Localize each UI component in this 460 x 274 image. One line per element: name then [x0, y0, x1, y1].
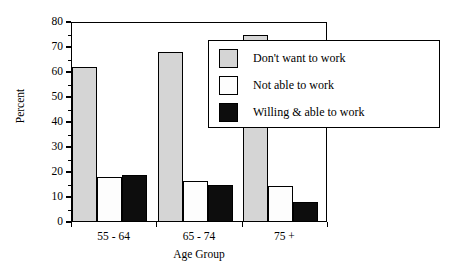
x-axis-tick-mark [242, 222, 243, 227]
y-axis-tick-label: 30 [52, 141, 67, 153]
y-axis-minor-tick [68, 185, 71, 186]
bar [268, 186, 293, 222]
y-axis-tick-mark [66, 96, 71, 97]
y-axis-tick-label: 40 [52, 116, 67, 128]
x-axis-tick-mark [156, 222, 157, 227]
x-axis-category-label: 75 + [242, 230, 327, 242]
legend-label: Don't want to work [253, 51, 345, 66]
y-axis-tick-mark [66, 71, 71, 72]
y-axis-tick-label: 80 [52, 16, 67, 28]
y-axis-tick-label: 50 [52, 91, 67, 103]
y-axis-minor-tick [68, 60, 71, 61]
bar [208, 185, 233, 223]
legend-entry-not-able-to-work: Not able to work [219, 75, 334, 95]
legend-label: Not able to work [253, 78, 334, 93]
bar [183, 181, 208, 222]
x-axis-tick-mark [71, 222, 72, 227]
y-axis-tick-label: 10 [52, 191, 67, 203]
x-axis-category-label: 55 - 64 [71, 230, 156, 242]
bar [158, 52, 183, 222]
y-axis-tick-mark [66, 146, 71, 147]
y-axis-minor-tick [68, 160, 71, 161]
bar [293, 202, 318, 222]
y-axis-tick-mark [66, 171, 71, 172]
legend-swatch-icon-dont-want-to-work [219, 49, 238, 68]
x-axis-category-label: 65 - 74 [156, 230, 241, 242]
bar [97, 177, 122, 222]
x-axis-label: Age Group [71, 248, 327, 260]
legend-swatch-icon-willing-able-to-work [219, 103, 238, 122]
legend-swatch-icon-not-able-to-work [219, 76, 238, 95]
y-axis-tick-mark [66, 196, 71, 197]
y-axis-minor-tick [68, 210, 71, 211]
x-axis-tick-mark [327, 222, 328, 227]
legend-label: Willing & able to work [253, 105, 365, 120]
legend-entry-dont-want-to-work: Don't want to work [219, 48, 345, 68]
y-axis-tick-mark [66, 121, 71, 122]
bar-chart: Percent 0102030405060708055 - 6465 - 747… [0, 0, 460, 274]
bar [72, 67, 97, 222]
y-axis-tick-mark [66, 46, 71, 47]
y-axis-tick-label: 0 [57, 216, 66, 228]
legend: Don't want to work Not able to work Will… [208, 40, 440, 128]
y-axis-tick-label: 70 [52, 41, 67, 53]
y-axis-minor-tick [68, 85, 71, 86]
legend-entry-willing-able-to-work: Willing & able to work [219, 102, 365, 122]
y-axis-minor-tick [68, 110, 71, 111]
y-axis-tick-mark [66, 21, 71, 22]
y-axis-minor-tick [68, 135, 71, 136]
y-axis-tick-label: 20 [52, 166, 67, 178]
y-axis-label: Percent [14, 56, 26, 156]
y-axis-tick-label: 60 [52, 66, 67, 78]
bar [122, 175, 147, 223]
y-axis-minor-tick [68, 35, 71, 36]
